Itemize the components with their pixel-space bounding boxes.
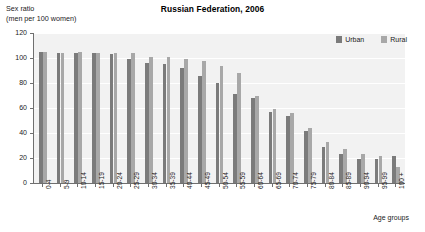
bar-group [140,33,158,183]
x-tick-label: 30-34 [151,172,158,189]
x-tick-label: 70-74 [292,172,299,189]
bar-rural-2529[interactable] [131,53,134,183]
x-tick-label: 40-44 [186,172,193,189]
x-tick-label: 90-94 [363,172,370,189]
bar-urban-9599[interactable] [375,159,378,183]
x-tick-mark [60,184,61,187]
y-tick-label: 20 [1,154,27,161]
y-tick-mark [30,108,33,109]
legend: UrbanRural [336,36,407,43]
bar-group [87,33,105,183]
bar-urban-6064[interactable] [251,98,254,183]
bar-urban-5054[interactable] [216,83,219,183]
legend-label-urban: Urban [345,36,364,43]
x-tick-mark [77,184,78,187]
x-tick-mark [360,184,361,187]
bar-urban-8084[interactable] [322,147,325,183]
x-tick-mark [289,184,290,187]
bar-group [264,33,282,183]
bar-rural-1519[interactable] [96,53,99,183]
bar-rural-6064[interactable] [255,96,258,184]
x-tick-label: 95-99 [381,172,388,189]
bar-group [334,33,352,183]
bar-urban-5559[interactable] [233,94,236,183]
x-tick-label: 65-69 [275,172,282,189]
bar-group [34,33,52,183]
legend-swatch-rural [381,36,387,43]
bar-urban-59[interactable] [57,53,60,183]
bar-group [105,33,123,183]
bar-urban-8589[interactable] [339,154,342,183]
x-tick-label: 60-64 [257,172,264,189]
y-tick-label: 60 [1,104,27,111]
bars-layer [34,33,405,183]
bar-urban-4044[interactable] [180,68,183,183]
bar-rural-5559[interactable] [237,73,240,183]
x-tick-label: 85-89 [345,172,352,189]
bar-urban-4549[interactable] [198,76,201,184]
x-tick-mark [113,184,114,187]
bar-rural-3539[interactable] [167,57,170,183]
bar-rural-4044[interactable] [184,59,187,183]
bar-urban-7579[interactable] [304,131,307,184]
x-tick-label: 20-24 [116,172,123,189]
y-tick-label: 40 [1,129,27,136]
legend-item-urban[interactable]: Urban [336,36,364,43]
bar-group [158,33,176,183]
bar-urban-04[interactable] [39,52,42,183]
x-tick-mark [166,184,167,187]
bar-urban-7074[interactable] [286,116,289,184]
x-tick-mark [95,184,96,187]
bar-rural-2024[interactable] [114,53,117,183]
y-tick-label: 80 [1,79,27,86]
bar-urban-9094[interactable] [357,159,360,183]
bar-rural-04[interactable] [43,52,46,183]
bar-rural-5054[interactable] [220,66,223,184]
x-tick-label: 55-59 [239,172,246,189]
bar-rural-59[interactable] [61,53,64,183]
y-tick-mark [30,33,33,34]
bar-group [193,33,211,183]
x-tick-mark [307,184,308,187]
bar-group [122,33,140,183]
x-tick-label: 0-4 [45,179,52,189]
x-tick-label: 100 + [398,172,405,189]
x-tick-mark [236,184,237,187]
y-tick-mark [30,133,33,134]
legend-label-rural: Rural [390,36,407,43]
bar-group [175,33,193,183]
bar-urban-1014[interactable] [74,53,77,183]
x-tick-mark [183,184,184,187]
legend-item-rural[interactable]: Rural [381,36,407,43]
x-tick-label: 75-79 [310,172,317,189]
bar-urban-2024[interactable] [110,54,113,183]
y-tick-label: 0 [1,179,27,186]
x-tick-mark [342,184,343,187]
x-tick-label: 15-19 [98,172,105,189]
y-tick-label: 120 [1,29,27,36]
bar-rural-4549[interactable] [202,61,205,184]
bar-urban-6569[interactable] [269,112,272,183]
bar-urban-3034[interactable] [145,63,148,183]
bar-group [69,33,87,183]
bar-urban-100+[interactable] [392,156,395,184]
x-tick-mark [130,184,131,187]
bar-group [370,33,388,183]
bar-urban-2529[interactable] [127,59,130,183]
bar-group [299,33,317,183]
bar-group [387,33,405,183]
bar-urban-1519[interactable] [92,53,95,183]
bar-group [228,33,246,183]
y-tick-mark [30,83,33,84]
plot-area [33,33,405,184]
y-tick-label: 100 [1,54,27,61]
legend-swatch-urban [336,36,342,43]
bar-rural-3034[interactable] [149,57,152,183]
x-tick-label: 80-84 [328,172,335,189]
x-tick-label: 45-49 [204,172,211,189]
x-tick-mark [395,184,396,187]
bar-urban-3539[interactable] [163,64,166,183]
y-tick-mark [30,183,33,184]
bar-rural-1014[interactable] [78,52,81,183]
y-tick-mark [30,58,33,59]
